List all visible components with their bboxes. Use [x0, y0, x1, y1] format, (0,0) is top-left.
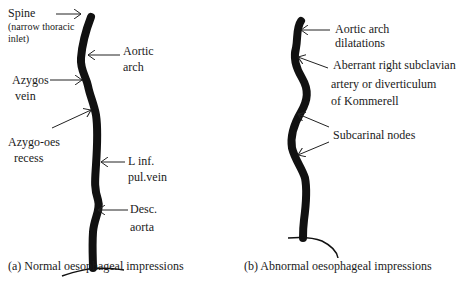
caption-abnormal: (b) Abnormal oesophageal impressions — [244, 259, 432, 274]
label-spine-note-1: (narrow thoracic — [8, 21, 74, 33]
label-azygo-oes-2: recess — [14, 151, 43, 166]
label-aberrant-1: Aberrant right subclavian — [333, 58, 456, 73]
label-subcarinal: Subcarinal nodes — [333, 128, 415, 143]
label-l-inf-2: pul.vein — [128, 170, 167, 185]
label-azygos-1: Azygos — [12, 73, 49, 88]
label-aberrant-2: artery or diverticulum — [331, 77, 436, 92]
label-azygo-oes-1: Azygo-oes — [8, 135, 60, 150]
label-l-inf-1: L inf. — [128, 154, 154, 169]
normal-oesophagus-shape — [62, 17, 124, 276]
label-azygos-2: vein — [15, 89, 36, 104]
subcarinal-arrow-upper — [298, 114, 329, 127]
normal-arrows — [50, 14, 128, 210]
caption-normal: (a) Normal oesophageal impressions — [8, 259, 184, 274]
aberrant-subclavian-arrow — [298, 57, 328, 68]
abnormal-oesophagus-shape — [288, 21, 338, 258]
label-aortic-dilatation-1: Aortic arch — [335, 22, 389, 37]
label-aortic-dilatation-2: dilatations — [335, 36, 385, 51]
label-desc-aorta-2: aorta — [130, 220, 154, 235]
label-spine-note-2: inlet) — [8, 33, 29, 45]
label-aortic-arch-1: Aortic — [123, 44, 154, 59]
azygo-oes-arrow — [52, 110, 91, 128]
label-spine: Spine — [8, 6, 35, 21]
label-desc-aorta-1: Desc. — [130, 202, 157, 217]
subcarinal-arrow-lower — [298, 142, 329, 155]
label-aortic-arch-2: arch — [123, 60, 144, 75]
label-aberrant-3: of Kommerell — [331, 94, 399, 109]
